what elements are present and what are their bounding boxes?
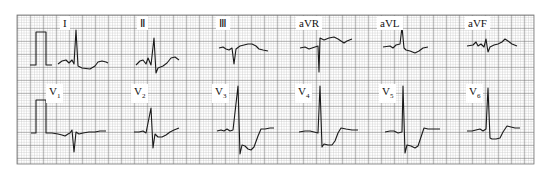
lead-label-aVL: aVL [377,16,403,30]
lead-label-V1: V1 [46,84,63,103]
lead-label-aVR: aVR [296,16,322,30]
lead-label-aVF: aVF [465,16,490,30]
lead-label-V3: V3 [212,84,229,103]
lead-label-V2: V2 [131,84,148,103]
ecg-grid [17,15,534,164]
lead-label-III: Ⅲ [216,16,230,30]
lead-label-I: I [60,16,70,30]
lead-label-V5: V5 [379,84,396,103]
ecg-figure [0,0,544,179]
lead-label-V6: V6 [466,84,483,103]
lead-label-V4: V4 [295,84,312,103]
lead-label-II: Ⅱ [137,16,148,30]
